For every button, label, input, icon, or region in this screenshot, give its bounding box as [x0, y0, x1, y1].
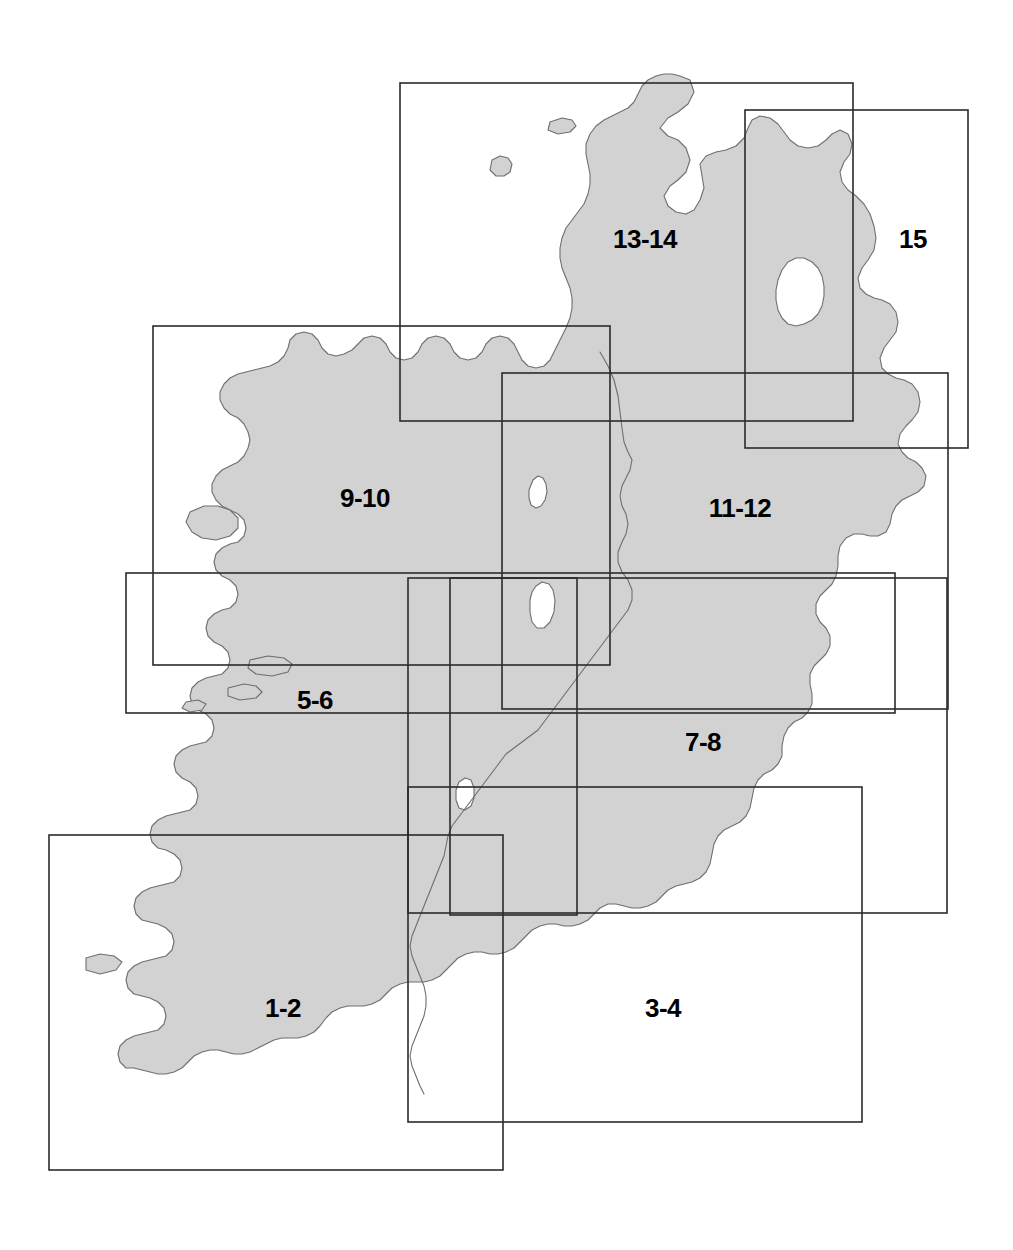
island-arranmore [490, 156, 512, 176]
island-tory [548, 118, 576, 134]
sheet-label-1-2: 1-2 [265, 993, 301, 1024]
map-sheet-index: 1-2 3-4 5-6 7-8 9-10 11-12 13-14 15 [0, 0, 1013, 1250]
sheet-label-15: 15 [899, 224, 927, 255]
sheet-label-13-14: 13-14 [613, 224, 677, 255]
island-inishbofin [182, 700, 206, 712]
sheet-label-11-12: 11-12 [709, 493, 772, 524]
island-achill [186, 506, 238, 540]
sheet-label-5-6: 5-6 [297, 685, 333, 716]
sheet-label-7-8: 7-8 [685, 727, 721, 758]
island-aran [228, 684, 262, 700]
island-valentia [86, 954, 122, 974]
lough-neagh [776, 258, 824, 326]
sheet-label-3-4: 3-4 [645, 993, 681, 1024]
ireland-landmass [118, 74, 926, 1074]
lough-allen [456, 778, 474, 810]
sheet-label-9-10: 9-10 [340, 483, 390, 514]
ireland-coastline-map [0, 0, 1013, 1250]
island-clare [248, 656, 292, 676]
